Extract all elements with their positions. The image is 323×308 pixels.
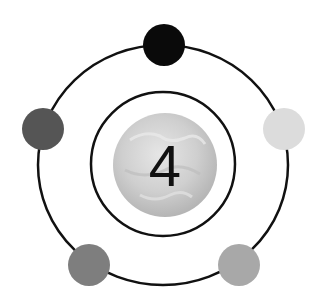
node-right [263, 108, 305, 150]
node-bottom-left [68, 244, 110, 286]
node-left [22, 108, 64, 150]
center-number: 4 [113, 113, 217, 217]
node-bottom-right [218, 244, 260, 286]
node-top [143, 24, 185, 66]
